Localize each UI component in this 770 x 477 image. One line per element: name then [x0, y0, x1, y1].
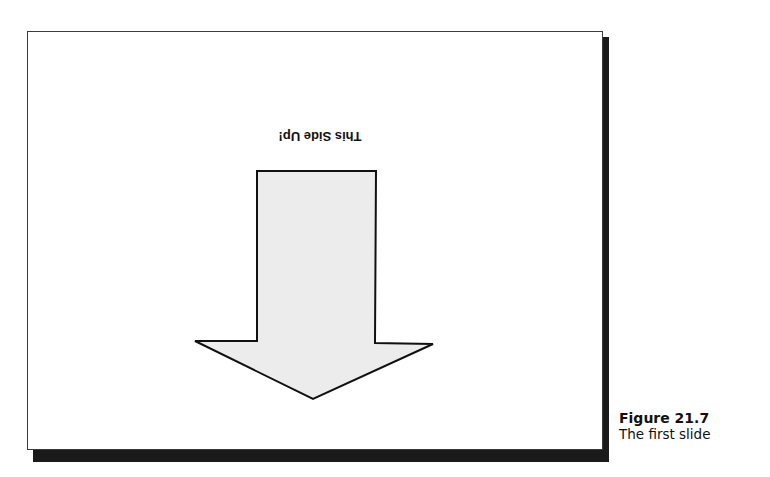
slide-text-upside-down: This Side Up!	[28, 129, 602, 144]
figure-caption-subtitle: The first slide	[619, 426, 710, 442]
slide-text-label: This Side Up!	[278, 129, 361, 144]
slide-frame: This Side Up!	[27, 31, 603, 450]
figure-caption-title: Figure 21.7	[619, 410, 710, 426]
figure-caption: Figure 21.7 The first slide	[619, 410, 710, 442]
